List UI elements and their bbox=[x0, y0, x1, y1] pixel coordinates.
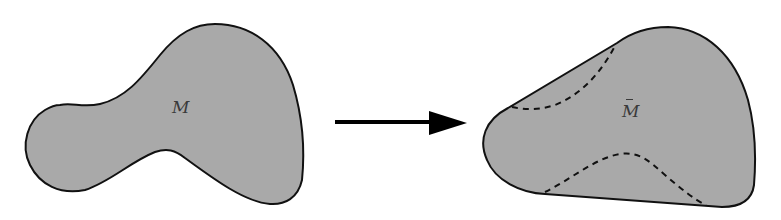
region-m-shape bbox=[26, 24, 304, 204]
region-m-label: M bbox=[172, 99, 189, 116]
mbar-accent-bar bbox=[626, 99, 633, 100]
right-arrow-icon bbox=[335, 111, 467, 135]
region-mbar-label: M bbox=[622, 103, 639, 120]
region-mbar-shape bbox=[483, 27, 755, 207]
diagram-canvas bbox=[0, 0, 781, 220]
